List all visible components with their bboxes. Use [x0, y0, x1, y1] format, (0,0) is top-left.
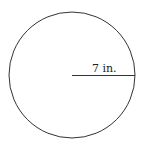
radius-label: 7 in. [92, 62, 117, 75]
circle-diagram: 7 in. [0, 0, 143, 148]
